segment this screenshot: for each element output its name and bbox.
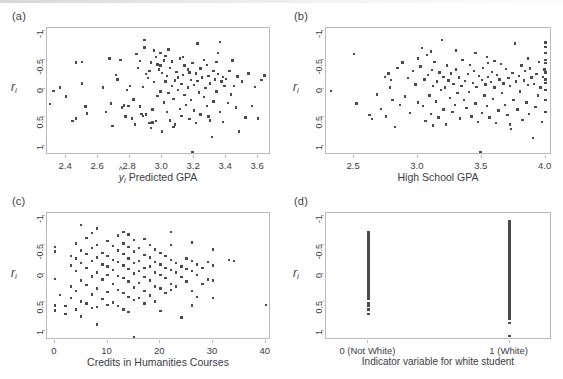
data-point [147,77,149,79]
data-point [254,86,256,88]
data-point [127,246,129,248]
data-point [459,117,461,119]
data-point [80,300,82,302]
data-point [468,91,470,93]
data-point [478,75,480,77]
data-point [85,284,87,286]
data-point [520,64,522,66]
data-point [164,267,166,269]
data-point [117,289,119,291]
data-point [385,115,387,117]
y-tick-label: 0 [35,88,45,116]
data-point [96,306,98,308]
data-point [153,49,155,51]
data-point [80,249,82,251]
data-point [507,77,509,79]
panel-a-points [47,28,269,153]
data-point [417,57,419,59]
data-point [195,122,197,124]
panel-b-tag: (b) [294,10,308,22]
data-point [247,72,249,74]
data-point [85,302,87,304]
data-point [54,246,56,248]
data-point [233,260,235,262]
data-point [127,105,129,107]
data-point [154,248,156,250]
data-point [180,115,182,117]
data-point [167,92,169,94]
data-point [469,64,471,66]
data-point [455,49,457,51]
data-point [91,247,93,249]
data-point [524,70,526,72]
data-point [196,263,198,265]
data-point [424,120,426,122]
panel-a-ylabel: ri [11,80,17,95]
panel-c-plot-frame [46,212,270,339]
data-point [143,290,145,292]
data-point [236,75,238,77]
data-point [106,265,108,267]
data-point [139,105,141,107]
panel-d-ylabel: ri [293,266,299,281]
data-point [185,268,187,270]
y-hat-symbol: ^y [119,171,124,183]
data-point [220,80,222,82]
x-tick-mark [417,155,418,158]
y-tick-label: -0.5 [35,59,45,87]
data-point [70,255,72,257]
data-point [203,59,205,61]
data-point [238,130,240,132]
data-point [106,274,108,276]
data-point [222,76,224,78]
data-point [54,278,56,280]
data-point [127,268,129,270]
data-point [244,116,246,118]
data-point [166,75,168,77]
data-point [430,113,432,115]
data-point [509,85,511,87]
data-point [122,292,124,294]
data-point [387,72,389,74]
data-point [444,86,446,88]
data-point [384,76,386,78]
x-tick-mark [161,155,162,158]
data-point [487,76,489,78]
data-point [59,294,61,296]
data-point [458,76,460,78]
data-point [70,297,72,299]
panel-d-points [326,213,550,338]
data-point [127,311,129,313]
data-point [170,244,172,246]
data-point [521,119,523,121]
data-point [112,245,114,247]
data-point [502,82,504,84]
y-tick-label: 0 [314,273,324,301]
data-point [505,68,507,70]
data-point [117,275,119,277]
data-point [541,121,543,123]
data-point [450,72,452,74]
data-point [135,53,137,55]
y-tick-label: 0 [35,273,45,301]
data-point [198,91,200,93]
data-point [52,90,54,92]
data-point [112,269,114,271]
y-tick-label: 0 [314,88,324,116]
data-point [191,260,193,262]
x-tick-mark [129,155,130,158]
data-point [182,74,184,76]
data-point [217,52,219,54]
data-point [465,107,467,109]
data-point [159,64,161,66]
data-point [201,283,203,285]
data-point [404,95,406,97]
data-point [508,335,510,337]
data-point [228,70,230,72]
data-point [217,73,219,75]
data-point [525,101,527,103]
x-tick-mark [65,155,66,158]
data-point [190,79,192,81]
data-point [117,261,119,263]
data-point [179,108,181,110]
